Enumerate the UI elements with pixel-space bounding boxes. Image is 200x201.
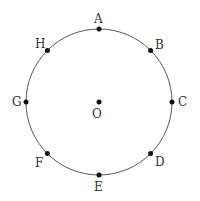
point-b [148,48,153,53]
label-f: F [35,156,43,170]
label-b: B [155,38,164,52]
label-c: C [178,95,187,109]
circle-diagram: O A B C D E F G H [0,0,200,201]
label-g: G [12,95,22,109]
label-d: D [155,155,165,169]
label-o: O [92,107,102,121]
point-g [24,100,29,105]
label-a: A [93,12,103,26]
center-point-o [97,100,102,105]
point-c [170,100,175,105]
point-a [97,27,102,32]
point-f [45,151,50,156]
point-h [45,48,50,53]
point-e [97,173,102,178]
label-e: E [94,180,103,194]
label-h: H [35,37,45,51]
point-d [148,151,153,156]
